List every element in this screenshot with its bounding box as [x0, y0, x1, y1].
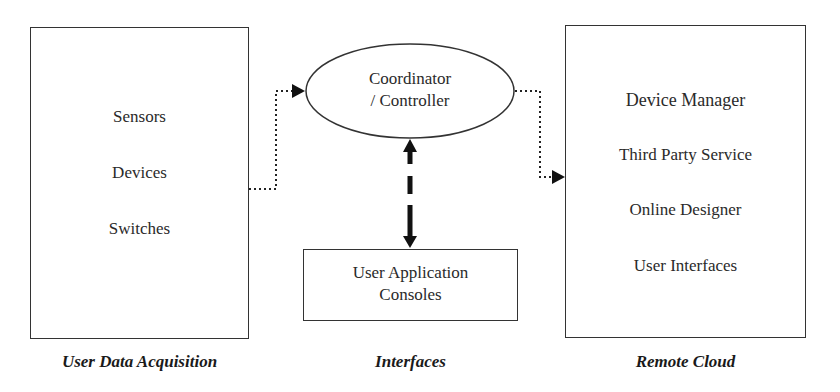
item-sensors: Sensors — [31, 107, 248, 127]
console-label: User Application Consoles — [304, 262, 517, 306]
dotted-arrow-acquisition-to-coordinator — [249, 84, 305, 189]
item-devices: Devices — [31, 163, 248, 183]
dashed-bidirectional-arrow — [403, 139, 417, 248]
item-user-interfaces: User Interfaces — [566, 256, 805, 276]
console-line2: Consoles — [304, 284, 517, 306]
dotted-arrow-coordinator-to-cloud — [515, 91, 565, 184]
section-label-interfaces: Interfaces — [303, 352, 518, 372]
section-label-remote-cloud: Remote Cloud — [565, 352, 806, 372]
remote-cloud-box: Device Manager Third Party Service Onlin… — [565, 25, 806, 338]
item-third-party-service: Third Party Service — [566, 145, 805, 165]
item-online-designer: Online Designer — [566, 200, 805, 220]
user-application-consoles-box: User Application Consoles — [303, 249, 518, 321]
user-data-acquisition-box: Sensors Devices Switches — [30, 27, 249, 339]
coordinator-label: Coordinator / Controller — [306, 68, 514, 112]
item-device-manager: Device Manager — [566, 90, 805, 110]
console-line1: User Application — [304, 262, 517, 284]
coordinator-line2: / Controller — [306, 90, 514, 112]
item-switches: Switches — [31, 219, 248, 239]
coordinator-line1: Coordinator — [306, 68, 514, 90]
section-label-user-data-acquisition: User Data Acquisition — [30, 352, 249, 372]
